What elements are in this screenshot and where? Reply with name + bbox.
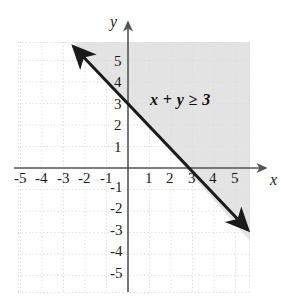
- y-tick-label-4: 4: [114, 75, 122, 90]
- x-axis-label: x: [270, 172, 277, 188]
- y-tick-label-2: 2: [114, 118, 122, 133]
- x-tick-label--2: -2: [78, 171, 91, 186]
- y-tick-label-1: 1: [114, 140, 122, 155]
- x-tick-label-2: 2: [166, 171, 174, 186]
- x-tick-label--5: -5: [14, 171, 27, 186]
- x-tick-label--3: -3: [57, 171, 70, 186]
- x-tick-label-1: 1: [145, 171, 153, 186]
- x-tick-label-3: 3: [188, 171, 196, 186]
- inequality-annotation: x + y ≥ 3: [150, 92, 211, 108]
- y-tick-label-5: 5: [114, 54, 122, 69]
- y-tick-label--1: -1: [110, 180, 123, 195]
- y-tick-label--5: -5: [110, 266, 123, 281]
- y-axis-label: y: [110, 14, 117, 30]
- y-tick-label--4: -4: [110, 244, 123, 259]
- x-tick-label-4: 4: [209, 171, 217, 186]
- y-tick-label-3: 3: [114, 97, 122, 112]
- coordinate-plane-svg: [0, 0, 281, 298]
- inequality-graph-figure: y x -5 -4 -3 -2 -1 1 2 3 4 5 5 4 3 2 1 -…: [0, 0, 281, 298]
- x-tick-label--4: -4: [35, 171, 48, 186]
- y-tick-label--2: -2: [110, 201, 123, 216]
- y-tick-label--3: -3: [110, 223, 123, 238]
- x-tick-label-5: 5: [231, 171, 239, 186]
